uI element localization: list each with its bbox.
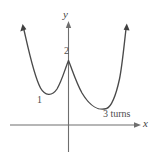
quartic-turning-points-figure: y x 1 2 3 turns bbox=[0, 0, 160, 159]
y-axis-arrowhead bbox=[66, 21, 71, 28]
x-axis-arrowhead bbox=[134, 122, 141, 127]
y-axis-group bbox=[66, 21, 71, 152]
x-axis-group bbox=[10, 122, 141, 127]
turning-point-1-label: 1 bbox=[37, 95, 42, 105]
turning-point-2-label: 2 bbox=[64, 46, 69, 56]
x-axis-label: x bbox=[143, 118, 148, 129]
curve-left-arrowhead bbox=[20, 24, 26, 31]
y-axis-label: y bbox=[63, 9, 68, 20]
figure-canvas bbox=[0, 0, 160, 159]
curve-right-arrowhead bbox=[124, 24, 130, 31]
turns-count-annotation: 3 turns bbox=[103, 109, 131, 119]
